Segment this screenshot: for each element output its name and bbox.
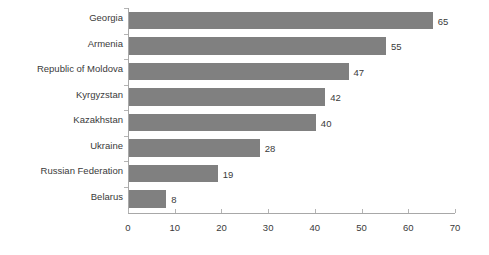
x-axis-tick-label: 70 bbox=[450, 222, 461, 233]
x-axis-tick bbox=[175, 209, 176, 213]
plot-area: Georgia65Armenia55Republic of Moldova47K… bbox=[0, 0, 489, 255]
x-axis-tick bbox=[268, 209, 269, 213]
x-axis-tick bbox=[221, 209, 222, 213]
x-axis-ticks: 010203040506070 bbox=[0, 0, 489, 255]
x-axis-tick-label: 40 bbox=[310, 222, 321, 233]
x-axis-tick bbox=[315, 209, 316, 213]
x-axis-tick-label: 50 bbox=[356, 222, 367, 233]
x-axis-tick-label: 20 bbox=[216, 222, 227, 233]
bar-chart: Georgia65Armenia55Republic of Moldova47K… bbox=[0, 0, 489, 255]
x-axis-tick bbox=[128, 209, 129, 213]
x-axis-tick-label: 10 bbox=[169, 222, 180, 233]
x-axis-tick-label: 60 bbox=[403, 222, 414, 233]
x-axis-tick bbox=[362, 209, 363, 213]
x-axis-tick bbox=[455, 209, 456, 213]
x-axis-tick-label: 30 bbox=[263, 222, 274, 233]
x-axis-tick-label: 0 bbox=[125, 222, 130, 233]
x-axis-tick bbox=[408, 209, 409, 213]
